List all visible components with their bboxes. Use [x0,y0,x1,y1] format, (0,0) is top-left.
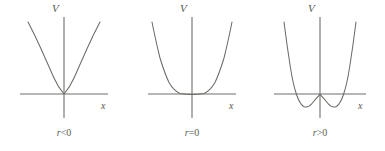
caption-r-positive: r>0 [256,127,384,139]
panel-r-negative: V x r<0 [0,0,128,151]
y-axis-label: V [308,3,315,14]
caption-value: 0 [322,127,327,138]
plot-area-r-zero [128,0,256,128]
x-axis-label: x [229,100,233,111]
panel-r-zero: V x r=0 [128,0,256,151]
plot-area-r-negative [0,0,128,128]
panel-r-positive: V x r>0 [256,0,384,151]
x-axis-label: x [358,100,362,111]
y-axis-label: V [180,3,187,14]
caption-r-zero: r=0 [128,127,256,139]
landau-potential-figure: V x r<0 V x r=0 V x [0,0,385,151]
x-axis-label: x [101,100,105,111]
y-axis-label: V [52,3,59,14]
plot-area-r-positive [256,0,384,128]
caption-value: 0 [194,127,199,138]
caption-r-negative: r<0 [0,127,128,139]
caption-value: 0 [66,127,71,138]
